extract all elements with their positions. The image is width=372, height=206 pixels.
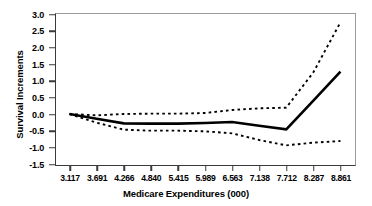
x-tick-label: 7.138 bbox=[250, 174, 270, 183]
y-tick-mark bbox=[49, 164, 55, 166]
chart-figure: 3.02.52.01.51.00.50.0-0.5-1.0-1.5 Surviv… bbox=[0, 0, 372, 206]
y-tick-label: 1.5 bbox=[32, 60, 44, 69]
x-tick-label: 3.691 bbox=[87, 174, 107, 183]
x-tick-label: 8.861 bbox=[331, 174, 351, 183]
y-tick-mark bbox=[49, 114, 55, 116]
y-tick-mark bbox=[49, 80, 55, 82]
x-tick-mark bbox=[69, 166, 71, 171]
x-tick-mark bbox=[123, 166, 125, 171]
plot-area bbox=[55, 13, 356, 166]
x-tick-mark bbox=[178, 166, 180, 171]
y-tick-label: -0.5 bbox=[29, 127, 44, 136]
x-tick-mark bbox=[96, 166, 98, 171]
y-tick-label: 1.0 bbox=[32, 77, 44, 86]
y-tick-label: 2.0 bbox=[32, 43, 44, 52]
x-tick-mark bbox=[151, 166, 153, 171]
series-line bbox=[70, 72, 341, 130]
y-tick-mark bbox=[49, 30, 55, 32]
y-tick-mark bbox=[49, 47, 55, 49]
x-tick-label: 8.287 bbox=[304, 174, 324, 183]
series-line bbox=[70, 114, 341, 145]
x-tick-label: 4.840 bbox=[141, 174, 161, 183]
y-tick-label: 0.5 bbox=[32, 93, 44, 102]
x-tick-label: 3.117 bbox=[60, 174, 80, 183]
y-tick-mark bbox=[49, 64, 55, 66]
y-axis-title: Survival Increments bbox=[14, 25, 25, 165]
x-tick-label: 7.712 bbox=[277, 174, 297, 183]
x-tick-mark bbox=[205, 166, 207, 171]
x-tick-label: 4.266 bbox=[114, 174, 134, 183]
y-tick-mark bbox=[49, 130, 55, 132]
x-axis-title: Medicare Expenditures (000) bbox=[0, 188, 372, 199]
y-tick-label: 0.0 bbox=[32, 110, 44, 119]
y-tick-label: 2.5 bbox=[32, 27, 44, 36]
x-tick-label: 5.989 bbox=[195, 174, 215, 183]
y-tick-label: -1.0 bbox=[29, 143, 44, 152]
x-tick-label: 5.415 bbox=[168, 174, 188, 183]
series-line bbox=[70, 22, 341, 115]
y-axis: 3.02.52.01.51.00.50.0-0.5-1.0-1.5 bbox=[0, 0, 52, 206]
y-tick-label: 3.0 bbox=[32, 10, 44, 19]
x-tick-mark bbox=[259, 166, 261, 171]
series-canvas bbox=[56, 14, 354, 164]
y-tick-label: -1.5 bbox=[29, 160, 44, 169]
x-tick-mark bbox=[340, 166, 342, 171]
x-tick-label: 6.563 bbox=[223, 174, 243, 183]
x-tick-mark bbox=[286, 166, 288, 171]
x-tick-mark bbox=[313, 166, 315, 171]
y-tick-mark bbox=[49, 147, 55, 149]
y-tick-mark bbox=[49, 97, 55, 99]
x-tick-mark bbox=[232, 166, 234, 171]
y-tick-mark bbox=[49, 14, 55, 16]
